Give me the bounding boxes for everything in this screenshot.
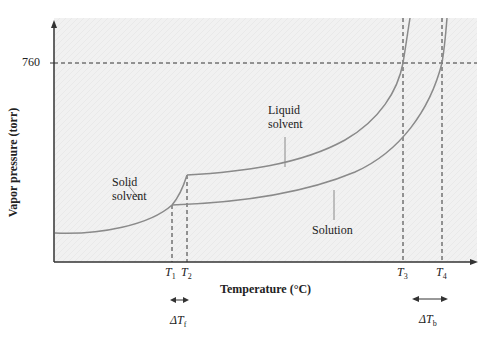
delta-tf-label: ΔTf [170, 314, 186, 331]
solid-label-line2: solvent [112, 190, 147, 203]
y-axis-label: Vapor pressure (torr) [6, 98, 21, 228]
solid-label-line1: Solid [112, 176, 137, 189]
solution-label: Solution [312, 224, 353, 237]
liquid-label-line1: Liquid [268, 104, 300, 117]
t1-label: T1 [165, 266, 176, 283]
delta-tf-arrow-icon [170, 297, 189, 303]
plot-area [54, 18, 477, 262]
t3-label: T3 [397, 266, 408, 283]
liquid-label-line2: solvent [268, 118, 303, 131]
delta-tb-arrow-icon [412, 296, 448, 302]
t4-label: T4 [436, 266, 447, 283]
t2-label: T2 [181, 266, 192, 283]
tick-760-label: 760 [22, 56, 40, 69]
delta-tb-label: ΔTb [419, 313, 437, 330]
x-axis-label: Temperature (°C) [220, 283, 311, 296]
